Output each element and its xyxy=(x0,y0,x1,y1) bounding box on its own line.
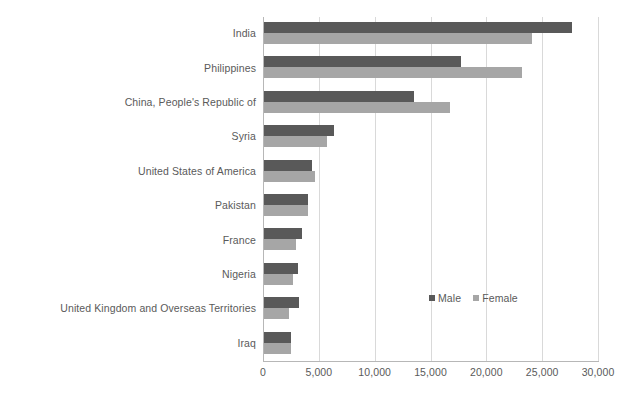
bar-group xyxy=(263,120,598,154)
legend-swatch-female xyxy=(473,295,479,301)
category-label: France xyxy=(0,234,256,246)
bar-group xyxy=(263,51,598,85)
bar-female[interactable] xyxy=(264,343,291,354)
bar-female[interactable] xyxy=(264,239,296,250)
category-label: Pakistan xyxy=(0,199,256,211)
bar-group xyxy=(263,155,598,189)
legend-label-male: Male xyxy=(438,292,461,304)
bar-female[interactable] xyxy=(264,33,532,44)
category-label: India xyxy=(0,27,256,39)
bar-group xyxy=(263,327,598,361)
category-label: Philippines xyxy=(0,62,256,74)
x-tick-label: 0 xyxy=(260,366,266,378)
bar-chart: IndiaPhilippinesChina, People's Republic… xyxy=(0,0,634,398)
x-tick-label: 10,000 xyxy=(358,366,391,378)
bar-female[interactable] xyxy=(264,274,293,285)
category-label: Nigeria xyxy=(0,268,256,280)
plot-area xyxy=(263,17,598,361)
x-tick-label: 30,000 xyxy=(582,366,615,378)
y-axis-line xyxy=(263,17,264,361)
category-label: Syria xyxy=(0,130,256,142)
bar-group xyxy=(263,189,598,223)
legend-item-male[interactable]: Male xyxy=(429,292,461,304)
bar-male[interactable] xyxy=(264,297,299,308)
legend-item-female[interactable]: Female xyxy=(473,292,518,304)
bar-male[interactable] xyxy=(264,263,298,274)
category-label: United Kingdom and Overseas Territories xyxy=(0,302,256,314)
bar-group xyxy=(263,86,598,120)
bar-male[interactable] xyxy=(264,194,308,205)
x-tick-label: 20,000 xyxy=(470,366,503,378)
bar-male[interactable] xyxy=(264,160,312,171)
category-label: Iraq xyxy=(0,337,256,349)
category-label: United States of America xyxy=(0,165,256,177)
bar-female[interactable] xyxy=(264,136,327,147)
bar-male[interactable] xyxy=(264,332,291,343)
x-tick-label: 5,000 xyxy=(305,366,332,378)
bar-group xyxy=(263,223,598,257)
chart-legend: Male Female xyxy=(429,292,518,304)
bar-female[interactable] xyxy=(264,308,289,319)
bar-group xyxy=(263,258,598,292)
x-tick-label: 25,000 xyxy=(526,366,559,378)
legend-swatch-male xyxy=(429,295,435,301)
bar-female[interactable] xyxy=(264,171,315,182)
x-tick-label: 15,000 xyxy=(414,366,447,378)
bar-male[interactable] xyxy=(264,125,334,136)
category-label: China, People's Republic of xyxy=(0,96,256,108)
bar-male[interactable] xyxy=(264,22,572,33)
gridline xyxy=(598,17,599,361)
legend-label-female: Female xyxy=(482,292,518,304)
bar-female[interactable] xyxy=(264,205,308,216)
bar-male[interactable] xyxy=(264,56,461,67)
bar-female[interactable] xyxy=(264,102,450,113)
bar-male[interactable] xyxy=(264,91,414,102)
bar-male[interactable] xyxy=(264,228,302,239)
x-axis-line xyxy=(263,361,599,362)
bar-group xyxy=(263,17,598,51)
bar-female[interactable] xyxy=(264,67,522,78)
